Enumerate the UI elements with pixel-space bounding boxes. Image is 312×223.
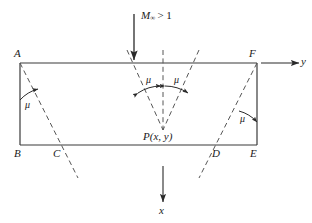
mach-line-from-a xyxy=(20,63,78,178)
mach-relation: > 1 xyxy=(157,9,171,21)
mu-label-left: μ xyxy=(25,100,30,110)
x-axis-label: x xyxy=(159,205,164,216)
vertex-label-b: B xyxy=(14,148,21,159)
mach-cone-right-branch xyxy=(163,50,199,130)
mach-cone-left-branch xyxy=(127,50,163,130)
y-axis-label: y xyxy=(301,56,306,67)
vertex-label-c: C xyxy=(53,148,60,159)
point-p-coords: (x, y) xyxy=(150,130,173,142)
vertex-label-a: A xyxy=(14,48,21,59)
mu-angle-arc-cone-left xyxy=(138,86,161,93)
mach-line-from-f xyxy=(199,63,257,178)
point-p-symbol: P xyxy=(143,130,150,142)
mu-label-right: μ xyxy=(240,114,245,124)
freestream-mach-label: M∞ > 1 xyxy=(141,10,172,22)
mu-label-cone-right: μ xyxy=(174,75,179,85)
vertex-label-d: D xyxy=(212,148,220,159)
vertex-label-f: F xyxy=(249,48,256,59)
mu-label-cone-left: μ xyxy=(146,75,151,85)
diagram-canvas xyxy=(0,0,312,223)
point-p-label: P(x, y) xyxy=(143,131,172,142)
mach-cone-diagram: A B C D E F M∞ > 1 y x μ μ μ μ P(x, y) xyxy=(0,0,312,223)
vertex-label-e: E xyxy=(250,148,257,159)
mu-angle-arc-cone-right xyxy=(165,86,188,93)
mach-symbol: M xyxy=(141,9,150,21)
